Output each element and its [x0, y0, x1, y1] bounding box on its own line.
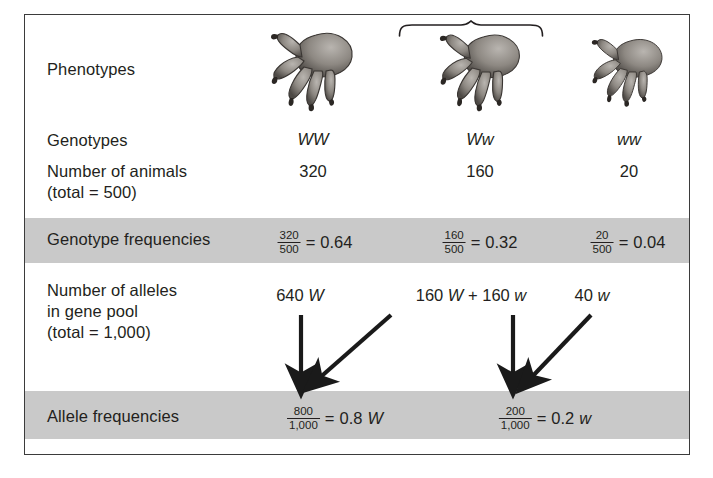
genotype-frequencies-row-label: Genotype frequencies [47, 229, 210, 250]
plus-sign: + [468, 286, 478, 304]
figure-frame: Phenotypes Genotypes Number of animals (… [24, 14, 690, 455]
heterozygote-brace-icon [398, 20, 544, 37]
fraction-denominator: 1,000 [287, 418, 320, 432]
clawed-paw-icon [588, 27, 671, 110]
allele-count: 640 [276, 286, 304, 304]
fraction: 20 500 [591, 229, 614, 256]
clawed-paw-icon [266, 19, 362, 115]
number-of-alleles-row-label-line2: in gene pool [47, 301, 138, 322]
animal-count-2: 20 [620, 161, 638, 182]
fraction: 800 1,000 [287, 405, 320, 432]
frequency-result: 0.32 [485, 233, 517, 252]
arrow-160W-to-800 [316, 315, 391, 381]
genotype-frequency-2: 20 500 = 0.04 [591, 229, 666, 256]
allele-symbol: W [367, 409, 383, 428]
fraction: 200 1,000 [499, 405, 532, 432]
allele-frequency-1: 200 1,000 = 0.2 w [499, 405, 591, 432]
equals-sign: = [619, 233, 629, 252]
allele-frequency-0: 800 1,000 = 0.8 W [287, 405, 383, 432]
arrow-40w-to-200 [528, 315, 591, 381]
fraction-denominator: 500 [278, 242, 301, 256]
frequency-result: 0.2 [551, 409, 574, 428]
equals-sign: = [306, 233, 316, 252]
allele-symbol: W [308, 286, 324, 304]
fraction-denominator: 500 [591, 242, 614, 256]
fraction: 320 500 [278, 229, 301, 256]
fraction-numerator: 320 [278, 229, 301, 242]
fraction-numerator: 160 [443, 229, 466, 242]
frequency-result: 0.8 [339, 409, 362, 428]
gene-pool-heterozygous: 160 W + 160 w [416, 285, 527, 306]
genotype-frequency-1: 160 500 = 0.32 [443, 229, 518, 256]
phenotypes-row-label: Phenotypes [47, 59, 135, 80]
allele-count-left: 160 [416, 286, 444, 304]
genotype-value-1: Ww [466, 129, 494, 150]
fraction-denominator: 1,000 [499, 418, 532, 432]
fraction-numerator: 20 [594, 229, 611, 242]
allele-symbol: w [579, 409, 591, 428]
frequency-result: 0.04 [633, 233, 665, 252]
equals-sign: = [325, 409, 335, 428]
animal-count-0: 320 [299, 161, 327, 182]
fraction-denominator: 500 [443, 242, 466, 256]
equals-sign: = [471, 233, 481, 252]
allele-symbol-right: w [514, 286, 526, 304]
number-of-alleles-total: (total = 1,000) [47, 322, 151, 343]
frequency-result: 0.64 [320, 233, 352, 252]
number-of-animals-row-label: Number of animals [47, 161, 187, 182]
equals-sign: = [537, 409, 547, 428]
allele-symbol-left: W [448, 286, 464, 304]
gene-pool-homozygous-recessive: 40 w [575, 285, 610, 306]
allele-count-right: 160 [482, 286, 510, 304]
genotype-value-0: WW [297, 129, 328, 150]
allele-count: 40 [575, 286, 593, 304]
allele-symbol: w [598, 286, 610, 304]
animal-count-1: 160 [466, 161, 494, 182]
genotypes-row-label: Genotypes [47, 130, 128, 151]
allele-frequencies-row-label: Allele frequencies [47, 406, 179, 427]
number-of-animals-total: (total = 500) [47, 182, 137, 203]
fraction-numerator: 800 [292, 405, 315, 418]
fraction-numerator: 200 [504, 405, 527, 418]
genotype-value-2: ww [617, 129, 641, 150]
number-of-alleles-row-label-line1: Number of alleles [47, 280, 177, 301]
genotype-frequency-0: 320 500 = 0.64 [278, 229, 353, 256]
fraction: 160 500 [443, 229, 466, 256]
gene-pool-homozygous-dominant: 640 W [276, 285, 324, 306]
